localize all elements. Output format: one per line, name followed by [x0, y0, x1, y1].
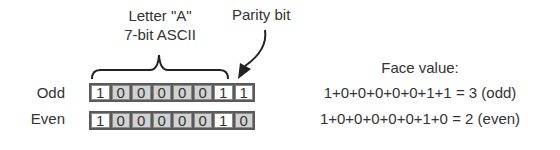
parity-bit-cell: 0: [235, 113, 254, 128]
bit-row-odd: 1 0 0 0 0 0 1 1: [89, 83, 255, 102]
bit-cell: 1: [91, 85, 110, 100]
arrow-icon: [245, 30, 265, 66]
parity-bit-cell: 1: [235, 85, 254, 100]
bit-cell: 0: [194, 113, 213, 128]
bit-row-even: 1 0 0 0 0 0 1 0: [89, 111, 255, 130]
bit-cell: 1: [214, 85, 233, 100]
bit-cell: 0: [153, 85, 172, 100]
bit-cell: 0: [173, 85, 192, 100]
bit-cell: 1: [91, 113, 110, 128]
bit-cell: 0: [194, 85, 213, 100]
bit-cell: 0: [112, 85, 131, 100]
bit-cell: 0: [173, 113, 192, 128]
bit-cell: 0: [112, 113, 131, 128]
face-value-odd: 1+0+0+0+0+0+1+1 = 3 (odd): [280, 84, 560, 101]
bit-cell: 0: [153, 113, 172, 128]
bit-cell: 0: [132, 113, 151, 128]
face-value-heading: Face value:: [280, 59, 560, 76]
face-value-even: 1+0+0+0+0+0+1+0 = 2 (even): [280, 110, 560, 127]
brace-icon: [92, 55, 228, 79]
arrowhead-icon: [238, 63, 251, 79]
row-label-even: Even: [0, 110, 65, 127]
bit-cell: 0: [132, 85, 151, 100]
bit-cell: 1: [214, 113, 233, 128]
row-label-odd: Odd: [0, 84, 65, 101]
